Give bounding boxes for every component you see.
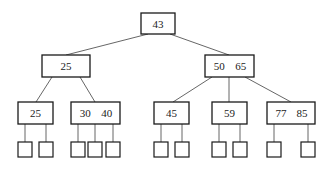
node-key: 77 bbox=[275, 107, 287, 119]
tree-leaves bbox=[18, 142, 315, 157]
b-tree-diagram: 4325506525304045597785 bbox=[0, 0, 332, 171]
leaf-node bbox=[233, 142, 247, 157]
tree-nodes: 4325506525304045597785 bbox=[18, 13, 315, 124]
tree-edge bbox=[245, 77, 291, 102]
tree-node-n77_85: 7785 bbox=[267, 102, 315, 124]
node-key: 40 bbox=[101, 107, 113, 119]
tree-node-n30_40: 3040 bbox=[71, 102, 120, 124]
leaf-node bbox=[175, 142, 189, 157]
node-box bbox=[71, 102, 120, 124]
node-box bbox=[267, 102, 315, 124]
tree-node-n59: 59 bbox=[212, 102, 247, 124]
tree-edge bbox=[173, 77, 212, 102]
leaf-node bbox=[106, 142, 120, 157]
node-box bbox=[205, 55, 254, 77]
leaf-node bbox=[71, 142, 85, 157]
node-key: 45 bbox=[166, 107, 178, 119]
leaf-node bbox=[88, 142, 102, 157]
leaf-node bbox=[301, 142, 315, 157]
node-key: 30 bbox=[80, 107, 92, 119]
node-key: 25 bbox=[30, 107, 42, 119]
node-key: 85 bbox=[297, 107, 309, 119]
leaf-node bbox=[212, 142, 226, 157]
leaf-node bbox=[39, 142, 53, 157]
node-key: 50 bbox=[214, 60, 226, 72]
tree-edge bbox=[36, 77, 52, 102]
node-key: 43 bbox=[153, 18, 165, 30]
tree-edge bbox=[170, 34, 229, 55]
tree-edges bbox=[25, 34, 308, 142]
node-key: 65 bbox=[235, 60, 247, 72]
tree-node-n25: 25 bbox=[42, 55, 90, 77]
tree-edge bbox=[80, 77, 95, 102]
tree-node-n50_65: 5065 bbox=[205, 55, 254, 77]
leaf-node bbox=[18, 142, 32, 157]
tree-node-root: 43 bbox=[141, 13, 175, 34]
tree-node-n25b: 25 bbox=[18, 102, 53, 124]
node-key: 59 bbox=[224, 107, 236, 119]
leaf-node bbox=[267, 142, 281, 157]
leaf-node bbox=[154, 142, 168, 157]
tree-edge bbox=[66, 34, 148, 55]
node-key: 25 bbox=[61, 60, 73, 72]
tree-node-n45: 45 bbox=[154, 102, 189, 124]
